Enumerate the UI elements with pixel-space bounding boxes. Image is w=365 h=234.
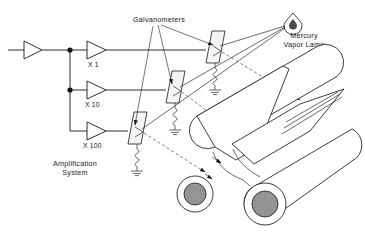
galvanometer-mirror (128, 112, 147, 144)
beam-landing-arrow-middle (212, 157, 221, 163)
amplifier-x1-symbol (87, 41, 106, 59)
galvanometers-leader-3 (135, 26, 153, 125)
galvanometers-leader-1 (161, 25, 213, 45)
galvanometer-mirror (206, 31, 225, 63)
coil-icon (135, 149, 139, 167)
ground-icon (169, 130, 181, 135)
amplification-system-label-line1: Amplification (53, 159, 97, 168)
mercury-vapor-lamp-label-line1: Mercury (290, 31, 318, 40)
galvanometer-bottom (128, 112, 147, 176)
recording-drum-assembly (177, 44, 362, 225)
beam-landing-arrow-bottom (205, 174, 212, 179)
light-beam-to-galvanometer-top (220, 26, 285, 46)
drum-lower-core (252, 191, 278, 217)
galvanometer-recorder-diagram: X 1 X 10 X 100 Amplification System (0, 0, 365, 234)
amplifier-x100-symbol (87, 122, 106, 140)
galvanometer-middle (166, 71, 185, 135)
amplifier-x1-label: X 1 (88, 61, 99, 68)
amplifier-x10-label: X 10 (85, 101, 100, 108)
amplifier-x100-label: X 100 (83, 142, 102, 149)
drum-upper-core (184, 183, 206, 205)
amplification-system-label-line2: System (62, 168, 87, 177)
ground-icon (131, 171, 143, 176)
galvanometers-label: Galvanometers (133, 15, 185, 24)
diagram-canvas: X 1 X 10 X 100 Amplification System (0, 0, 365, 234)
galvanometers-callout: Galvanometers (133, 15, 213, 125)
coil-icon (173, 108, 177, 126)
amplifier-x10-symbol (87, 81, 106, 99)
galvanometer-mirror (166, 71, 185, 103)
galvanometers-leader-2 (158, 25, 172, 84)
input-amplifier-symbol (24, 41, 42, 59)
ground-icon (209, 90, 221, 95)
